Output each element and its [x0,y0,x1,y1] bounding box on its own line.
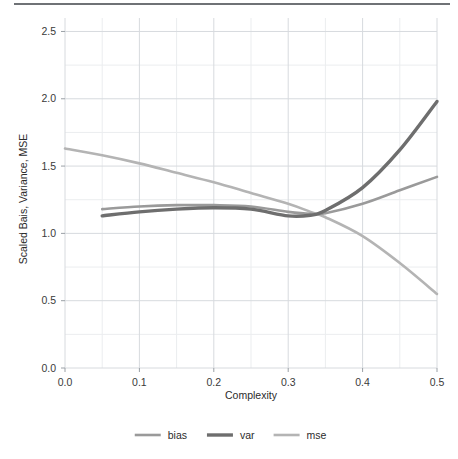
y-tick-label: 2.5 [41,25,56,37]
axis-tickmarks [61,31,437,372]
x-tick-label: 0.3 [281,376,296,388]
legend-label-bias: bias [168,429,187,441]
x-axis-tick-labels: 0.00.10.20.30.40.5 [58,376,445,388]
y-tick-label: 0.5 [41,294,56,306]
y-tick-label: 1.0 [41,227,56,239]
chart-legend: biasvarmse [135,429,327,441]
x-tick-label: 0.2 [206,376,221,388]
x-tick-label: 0.1 [132,376,147,388]
x-tick-label: 0.5 [430,376,445,388]
legend-label-mse: mse [307,429,327,441]
series-line-bias [102,177,437,214]
y-tick-label: 0.0 [41,362,56,374]
y-tick-label: 1.5 [41,160,56,172]
y-tick-label: 2.0 [41,92,56,104]
x-axis-title: Complexity [225,389,278,401]
x-tick-label: 0.4 [355,376,370,388]
bias-variance-tradeoff-chart: 0.00.10.20.30.40.5 0.00.51.01.52.02.5 Co… [0,0,458,459]
y-axis-title: Scaled Bais, Variance, MSE [17,134,29,265]
legend-label-var: var [240,429,255,441]
figure-container: 0.00.10.20.30.40.5 0.00.51.01.52.02.5 Co… [0,0,458,459]
x-tick-label: 0.0 [58,376,73,388]
y-axis-tick-labels: 0.00.51.01.52.02.5 [41,25,56,374]
